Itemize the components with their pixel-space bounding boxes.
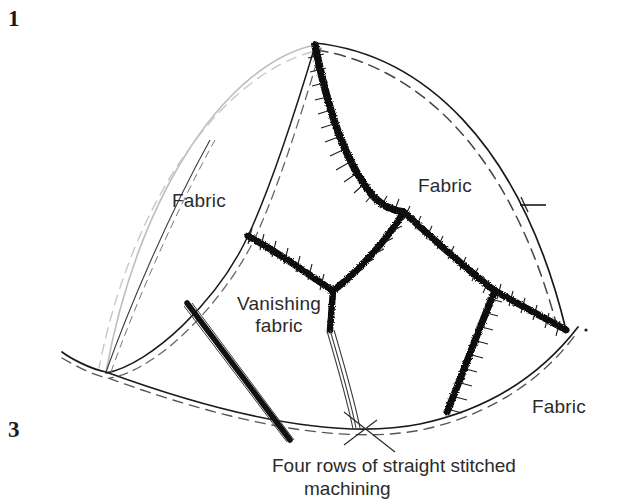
caption-line-1: Four rows of straight stitched	[272, 455, 516, 476]
left-panel-fold-line	[106, 140, 215, 372]
figure-marker-1: 1	[8, 7, 20, 30]
label-fabric-bottom-right: Fabric	[532, 396, 586, 418]
caption-straight-stitched-machining: Four rows of straight stitched machining	[272, 455, 572, 501]
caption-line-2: machining	[272, 478, 572, 501]
stray-ink-dot	[584, 328, 587, 331]
stitch-ticks	[248, 54, 560, 413]
caption-leader-line	[344, 412, 395, 452]
figure-marker-3: 3	[8, 418, 20, 441]
stitched-seams	[248, 45, 566, 412]
vanishing-fabric-outline	[327, 330, 360, 429]
label-fabric-left: Fabric	[172, 190, 226, 212]
figure-canvas: 1 3 Fabric Fabric Fabric Vanishing fabri…	[0, 0, 617, 503]
outer-edge-bottom	[62, 327, 578, 435]
label-vanishing-fabric: Vanishing fabric	[225, 293, 333, 338]
label-vanishing-fabric-line2: fabric	[255, 315, 303, 336]
diagram-artwork	[0, 0, 617, 503]
label-fabric-top-right: Fabric	[418, 175, 472, 197]
label-vanishing-fabric-line1: Vanishing	[237, 293, 321, 314]
